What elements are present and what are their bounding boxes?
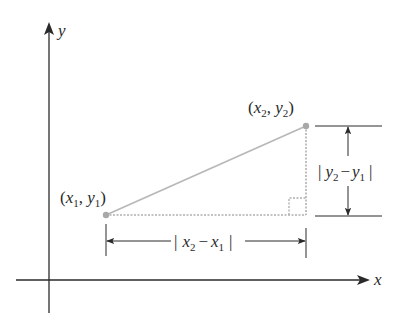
x-axis-label: x [373, 270, 382, 289]
vertical-dimension: |y2−y1| [315, 126, 382, 216]
right-angle-icon [289, 198, 306, 215]
horizontal-dimension: |x2−x1| [106, 224, 306, 258]
distance-diagram: y x (x1, y1) (x2, y2) |x2−x1| | [0, 0, 406, 319]
y-axis-label: y [56, 21, 66, 40]
horizontal-distance-label: |x2−x1| [174, 232, 233, 253]
vertical-distance-label: |y2−y1| [318, 162, 373, 183]
point-p2-label: (x2, y2) [248, 98, 294, 119]
x-axis: x [16, 270, 382, 289]
distance-segment [106, 126, 306, 215]
point-p1 [103, 212, 109, 218]
point-p2 [303, 123, 309, 129]
y-axis: y [44, 21, 66, 313]
point-p1-label: (x1, y1) [60, 188, 106, 209]
